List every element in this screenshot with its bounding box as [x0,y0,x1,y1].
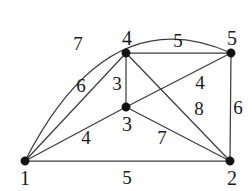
edge-weight-1-2: 5 [122,168,132,187]
edge-5-2[interactable] [230,53,231,161]
graph-diagram: 1 2 3 4 5 7 6 5 3 4 7 5 8 4 6 [0,0,252,191]
node-label-4: 4 [122,28,132,48]
edge-weight-4-5: 5 [173,31,183,50]
edge-weight-3-2: 7 [157,128,167,147]
node-1[interactable] [21,157,29,165]
edge-3-5[interactable] [126,53,231,107]
edge-weight-1-3: 4 [81,128,91,147]
edge-3-2[interactable] [126,107,230,161]
node-label-2: 2 [227,168,237,188]
edge-weight-1-4: 6 [76,76,86,95]
edge-weight-5-2: 6 [233,98,243,117]
node-5[interactable] [227,49,235,57]
edge-weight-4-2: 8 [194,99,204,118]
edge-1-4[interactable] [25,53,126,161]
edge-weight-1-5: 7 [73,34,83,53]
edge-weight-4-3: 3 [112,74,122,93]
node-label-5: 5 [227,28,237,48]
node-4[interactable] [122,49,130,57]
node-3[interactable] [122,103,130,111]
node-label-3: 3 [122,114,132,134]
node-label-1: 1 [20,168,30,188]
edge-weight-3-5: 4 [195,73,205,92]
edge-4-2[interactable] [126,53,230,161]
node-2[interactable] [226,157,234,165]
